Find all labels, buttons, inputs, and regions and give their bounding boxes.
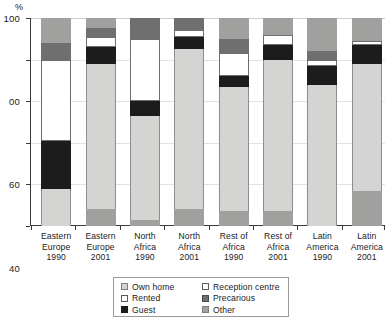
bar-segment-other xyxy=(86,209,116,226)
bar-segment-guest xyxy=(174,37,204,49)
x-category-label-line: 1990 xyxy=(33,252,79,263)
bar-segment-other xyxy=(86,18,116,28)
bar-segment-own-home xyxy=(263,60,293,212)
legend-swatch-icon xyxy=(121,306,128,313)
bar-segment-rented xyxy=(130,39,160,101)
stacked-bar-chart: % 020406000100 EasternEurope1990EasternE… xyxy=(0,0,391,320)
x-tick-mark xyxy=(384,226,385,230)
bar-segment-other xyxy=(219,18,249,39)
legend-column-left: Own homeRentedGuest xyxy=(121,281,174,316)
legend-item-rented[interactable]: Rented xyxy=(121,293,174,305)
x-category-label-line: North xyxy=(166,231,212,242)
y-tick-label: 00 xyxy=(9,96,20,107)
x-category-label-line: America xyxy=(344,242,390,253)
bar-segment-guest xyxy=(352,45,382,64)
x-tick-mark xyxy=(120,226,121,230)
legend-label: Guest xyxy=(132,305,155,315)
bar-segment-rented xyxy=(307,60,337,66)
x-category-label-line: Europe xyxy=(78,242,124,253)
x-tick-mark xyxy=(31,226,32,230)
bar-segment-guest xyxy=(219,76,249,86)
bar-segment-rented xyxy=(41,60,71,141)
bar-eastern-europe-2001[interactable] xyxy=(86,18,116,226)
x-category-label-line: 2001 xyxy=(166,252,212,263)
plot-area: 020406000100 xyxy=(30,18,385,226)
x-category-label-line: Africa xyxy=(255,242,301,253)
legend-item-precarious[interactable]: Precarious xyxy=(202,293,280,305)
x-category-label-line: Africa xyxy=(211,242,257,253)
x-category-label-line: Rest of xyxy=(255,231,301,242)
x-category-label: NorthAfrica1990 xyxy=(122,231,168,263)
x-category-label: LatinAmerica2001 xyxy=(344,231,390,263)
legend-label: Own home xyxy=(132,282,174,292)
bar-segment-rented xyxy=(219,53,249,76)
legend-swatch-icon xyxy=(121,283,128,290)
bar-segment-other xyxy=(307,18,337,51)
bar-segment-other xyxy=(263,18,293,35)
x-category-label-line: Europe xyxy=(33,242,79,253)
bar-segment-rented xyxy=(263,35,293,45)
bar-segment-other xyxy=(219,211,249,226)
chart-legend: Own homeRentedGuest Reception centrePrec… xyxy=(113,277,289,317)
y-tick-label: 100 xyxy=(4,13,20,24)
bar-north-africa-1990[interactable] xyxy=(130,18,160,226)
bar-latin-america-2001[interactable] xyxy=(352,18,382,226)
x-tick-mark xyxy=(342,226,343,230)
x-category-label: Rest ofAfrica1990 xyxy=(211,231,257,263)
x-category-label: NorthAfrica2001 xyxy=(166,231,212,263)
x-category-label-line: 1990 xyxy=(211,252,257,263)
bar-segment-other xyxy=(174,209,204,226)
bar-north-africa-2001[interactable] xyxy=(174,18,204,226)
bar-segment-guest xyxy=(86,47,116,64)
bar-segment-other xyxy=(263,211,293,226)
bar-segment-precarious xyxy=(130,18,160,39)
y-tick-mark: 0 xyxy=(26,226,30,227)
bar-segment-precarious xyxy=(41,43,71,60)
bar-segment-other xyxy=(352,18,382,41)
bar-eastern-europe-1990[interactable] xyxy=(41,18,71,226)
x-category-label-line: 2001 xyxy=(78,252,124,263)
x-category-label-line: Latin xyxy=(299,231,345,242)
bar-segment-own-home xyxy=(219,87,249,212)
bar-segment-guest xyxy=(263,45,293,60)
y-tick-label: 40 xyxy=(9,262,20,273)
y-tick-label: 60 xyxy=(9,179,20,190)
legend-swatch-icon xyxy=(121,295,128,302)
x-category-label-line: 1990 xyxy=(122,252,168,263)
x-category-label-line: Africa xyxy=(166,242,212,253)
bar-segment-other xyxy=(41,18,71,43)
bar-segment-guest xyxy=(130,101,160,116)
x-category-label: Rest ofAfrica2001 xyxy=(255,231,301,263)
bar-rest-of-africa-1990[interactable] xyxy=(219,18,249,226)
bar-segment-rented xyxy=(86,37,116,47)
x-tick-mark xyxy=(164,226,165,230)
bar-segment-own-home xyxy=(307,85,337,226)
bar-latin-america-1990[interactable] xyxy=(307,18,337,226)
y-axis-unit-label: % xyxy=(15,2,23,12)
legend-label: Precarious xyxy=(213,293,255,303)
bar-segment-precarious xyxy=(86,28,116,36)
bar-segment-guest xyxy=(41,141,71,189)
legend-item-other[interactable]: Other xyxy=(202,304,280,316)
legend-item-reception-centre[interactable]: Reception centre xyxy=(202,281,280,293)
bar-segment-own-home xyxy=(352,64,382,191)
x-category-label: LatinAmerica1990 xyxy=(299,231,345,263)
x-axis-category-labels: EasternEurope1990EasternEurope2001NorthA… xyxy=(30,231,385,271)
x-category-label: EasternEurope1990 xyxy=(33,231,79,263)
legend-item-guest[interactable]: Guest xyxy=(121,304,174,316)
bar-rest-of-africa-2001[interactable] xyxy=(263,18,293,226)
bar-segment-own-home xyxy=(174,49,204,209)
bar-segment-rented xyxy=(174,30,204,36)
bar-segment-precarious xyxy=(307,51,337,59)
x-tick-mark xyxy=(75,226,76,230)
bar-segment-other xyxy=(352,191,382,226)
x-tick-mark xyxy=(253,226,254,230)
legend-item-own-home[interactable]: Own home xyxy=(121,281,174,293)
x-category-label-line: 1990 xyxy=(299,252,345,263)
x-category-label: EasternEurope2001 xyxy=(78,231,124,263)
x-tick-mark xyxy=(297,226,298,230)
bar-segment-other xyxy=(130,220,160,226)
x-category-label-line: Eastern xyxy=(33,231,79,242)
bar-segment-own-home xyxy=(41,189,71,226)
legend-swatch-icon xyxy=(202,306,209,313)
